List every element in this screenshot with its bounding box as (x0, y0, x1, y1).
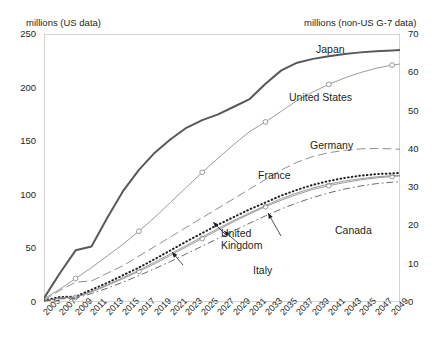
y2-axis-tick-label: 70 (408, 28, 419, 39)
y2-axis-tick-label: 60 (408, 66, 419, 77)
chart-container: millions (US data) millions (non-US G-7 … (0, 0, 440, 348)
series-marker (326, 82, 331, 87)
y2-axis-tick-label: 30 (408, 181, 419, 192)
y2-axis-tick-label: 50 (408, 105, 419, 116)
y-axis-tick-label: 50 (8, 242, 36, 253)
series-marker (390, 63, 395, 68)
y-axis-tick-label: 250 (8, 28, 36, 39)
left-axis-title: millions (US data) (26, 17, 101, 28)
y2-axis-tick-label: 20 (408, 219, 419, 230)
y2-axis-tick-label: 10 (408, 258, 419, 269)
y-axis-tick-label: 100 (8, 189, 36, 200)
series-label-japan: Japan (316, 43, 345, 55)
series-label-united-kingdom: United Kingdom (221, 228, 262, 252)
series-label-canada: Canada (335, 224, 372, 236)
series-label-italy: Italy (253, 264, 272, 276)
plot-svg (44, 34, 400, 302)
y-axis-tick-label: 200 (8, 82, 36, 93)
y-axis-tick-label: 0 (8, 296, 36, 307)
right-axis-title: millions (non-US G-7 data) (304, 17, 416, 28)
series-label-france: France (258, 169, 291, 181)
series-marker (200, 170, 205, 175)
series-marker (137, 229, 142, 234)
series-marker (390, 174, 395, 179)
y-axis-tick-label: 150 (8, 135, 36, 146)
series-label-united-states: United States (289, 91, 352, 103)
series-line-japan (44, 50, 400, 298)
plot-area (44, 34, 400, 302)
series-marker (73, 276, 78, 281)
y2-axis-tick-label: 40 (408, 143, 419, 154)
series-marker (263, 120, 268, 125)
series-label-germany: Germany (310, 139, 353, 151)
